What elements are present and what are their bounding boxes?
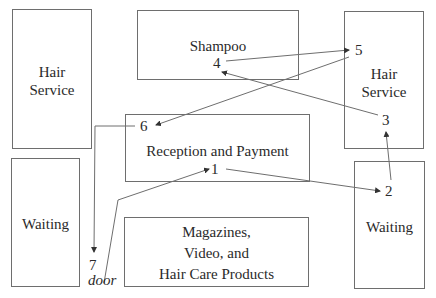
door-label: door: [88, 272, 116, 289]
step-1: 1: [211, 161, 219, 177]
customer-path: [0, 0, 436, 298]
step-7: 7: [89, 257, 97, 273]
step-5: 5: [355, 42, 363, 58]
step-3: 3: [382, 112, 390, 128]
step-6: 6: [140, 118, 148, 134]
step-2: 2: [385, 183, 393, 199]
step-4: 4: [213, 55, 221, 71]
